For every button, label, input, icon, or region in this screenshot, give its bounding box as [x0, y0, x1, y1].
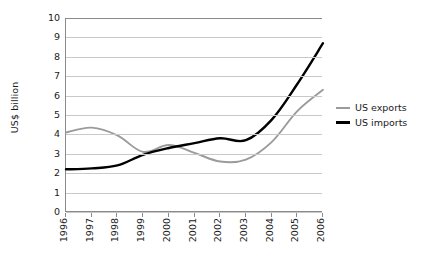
- x-axis-tick-label: 2003: [239, 218, 253, 242]
- y-axis-tick-label: 10: [34, 13, 60, 23]
- x-axis-tick-mark: [296, 213, 297, 217]
- x-axis-tick-label: 2006: [316, 218, 330, 242]
- gridline: [66, 76, 322, 77]
- y-axis-tick-label: 4: [34, 130, 60, 140]
- y-axis-tick-label: 8: [34, 52, 60, 62]
- legend: US exports US imports: [336, 100, 407, 130]
- legend-item-us-exports: US exports: [336, 100, 407, 115]
- legend-label-us-imports: US imports: [355, 115, 407, 130]
- y-axis-tick-label: 0: [34, 207, 60, 217]
- x-axis-tick-label: 2002: [213, 218, 227, 242]
- x-axis-tick-mark: [65, 213, 66, 217]
- legend-swatch-us-exports: [336, 107, 350, 109]
- y-axis-tick-labels: 012345678910: [30, 0, 60, 259]
- x-axis-tick-mark: [116, 213, 117, 217]
- x-axis-tick-mark: [245, 213, 246, 217]
- x-axis-tick-label: 1996: [59, 218, 73, 242]
- gridline: [66, 57, 322, 58]
- y-axis-tick-label: 6: [34, 91, 60, 101]
- gridline: [66, 134, 322, 135]
- y-axis-tick-label: 9: [34, 33, 60, 43]
- x-axis-tick-label: 2000: [162, 218, 176, 242]
- x-axis-tick-mark: [91, 213, 92, 217]
- y-axis-tick-label: 1: [34, 188, 60, 198]
- x-axis-tick-mark: [168, 213, 169, 217]
- y-axis-title: US$ billion: [10, 82, 21, 134]
- x-axis-tick-mark: [322, 213, 323, 217]
- legend-item-us-imports: US imports: [336, 115, 407, 130]
- x-axis-tick-label: 1999: [136, 218, 150, 242]
- gridline: [66, 18, 322, 19]
- gridline: [66, 37, 322, 38]
- x-axis-tick-label: 2001: [188, 218, 202, 242]
- legend-label-us-exports: US exports: [355, 100, 407, 115]
- x-axis-tick-mark: [219, 213, 220, 217]
- y-axis-title-wrapper: US$ billion: [4, 0, 26, 215]
- x-axis-tick-label: 1998: [110, 218, 124, 242]
- x-axis-tick-mark: [142, 213, 143, 217]
- y-axis-tick-label: 3: [34, 149, 60, 159]
- x-axis-tick-mark: [271, 213, 272, 217]
- y-axis-tick-label: 2: [34, 168, 60, 178]
- gridline: [66, 173, 322, 174]
- gridline: [66, 154, 322, 155]
- x-axis-tick-mark: [194, 213, 195, 217]
- y-axis-tick-label: 5: [34, 110, 60, 120]
- x-axis-tick-label: 2005: [290, 218, 304, 242]
- line-chart: US$ billion 012345678910 199619971998199…: [0, 0, 425, 259]
- gridline: [66, 193, 322, 194]
- series-line-us-imports: [66, 43, 323, 169]
- x-axis-tick-labels: 1996199719981999200020012002200320042005…: [65, 218, 322, 258]
- series-line-us-exports: [66, 90, 323, 163]
- y-axis-tick-label: 7: [34, 71, 60, 81]
- gridline: [66, 115, 322, 116]
- plot-area: [65, 18, 322, 212]
- gridline: [66, 96, 322, 97]
- x-axis-tick-label: 1997: [85, 218, 99, 242]
- legend-swatch-us-imports: [336, 121, 350, 124]
- x-axis-tick-label: 2004: [265, 218, 279, 242]
